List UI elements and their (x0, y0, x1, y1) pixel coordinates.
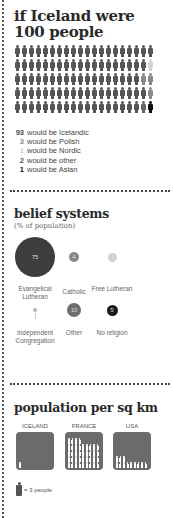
person-icon (21, 86, 28, 100)
person-icon (70, 86, 77, 100)
person-icon (84, 44, 91, 58)
person-icon (77, 44, 84, 58)
person-icon (49, 100, 56, 114)
legend-item: 93would be Icelandic (14, 128, 89, 137)
person-icon (77, 58, 84, 72)
country-label: FRANCE (64, 423, 104, 429)
person-icon (49, 44, 56, 58)
person-icon (21, 72, 28, 86)
person-icon (14, 44, 21, 58)
legend-text: would be Icelandic (27, 128, 89, 137)
person-icon (98, 72, 105, 86)
person-icon (70, 72, 77, 86)
person-icon (133, 44, 140, 58)
belief-bubble: 4 (69, 252, 79, 262)
person-icon (133, 58, 140, 72)
belief-label: Free Lutheran (84, 285, 140, 293)
person-icon (56, 58, 63, 72)
person-icon (112, 72, 119, 86)
person-icon (147, 100, 154, 114)
person-icon (96, 444, 100, 450)
person-icon (126, 72, 133, 86)
person-icon (21, 100, 28, 114)
legend-item: 1would be Nordic (14, 146, 89, 155)
person-icon (96, 456, 100, 462)
person-icon (133, 72, 140, 86)
person-icon (133, 100, 140, 114)
person-icon (126, 58, 133, 72)
person-icon (35, 44, 42, 58)
person-icon (147, 58, 154, 72)
person-icon (28, 58, 35, 72)
legend-item: 2would be other (14, 156, 89, 165)
person-icon (147, 44, 154, 58)
person-icon (126, 86, 133, 100)
person-icon (147, 72, 154, 86)
person-icon (35, 86, 42, 100)
person-icon (70, 100, 77, 114)
person-icon (91, 86, 98, 100)
person-icon (49, 72, 56, 86)
person-icon (133, 86, 140, 100)
person-icon (140, 58, 147, 72)
section-title-people: if Iceland were 100 people (14, 8, 164, 40)
legend-count: 1 (14, 146, 24, 155)
person-icon (105, 58, 112, 72)
person-icon (112, 86, 119, 100)
person-icon (35, 58, 42, 72)
person-icon (105, 44, 112, 58)
person-icon (56, 100, 63, 114)
belief-label: No religion (84, 329, 140, 337)
country-label: USA (112, 423, 152, 429)
legend-item: 1would be Asian (14, 165, 89, 174)
person-icon (42, 72, 49, 86)
person-icon (42, 86, 49, 100)
person-icon (21, 44, 28, 58)
country-label: ICELAND (15, 423, 55, 429)
person-icon (140, 72, 147, 86)
density-box-iceland (16, 432, 54, 470)
section-title-density: population per sq km (14, 400, 158, 415)
person-icon (96, 450, 100, 456)
person-icon (119, 100, 126, 114)
person-icon (98, 86, 105, 100)
person-icon (112, 44, 119, 58)
person-icon (91, 72, 98, 86)
legend-text: would be Nordic (27, 146, 81, 155)
person-icon (140, 44, 147, 58)
section-divider (10, 190, 170, 192)
person-key-label: = 3 people (24, 487, 52, 493)
person-icon (63, 72, 70, 86)
person-icon (91, 44, 98, 58)
person-icon (119, 44, 126, 58)
person-icon (144, 462, 148, 468)
person-icon (84, 58, 91, 72)
person-icon (35, 72, 42, 86)
belief-bubble: 5 (107, 305, 118, 316)
person-icon (119, 86, 126, 100)
left-dotted-border (2, 0, 4, 518)
belief-bubble (33, 308, 37, 312)
person-icon (28, 100, 35, 114)
person-icon (122, 456, 126, 462)
person-icon (119, 58, 126, 72)
person-icon (84, 100, 91, 114)
person-icon (84, 86, 91, 100)
person-icon (63, 58, 70, 72)
person-icon (105, 100, 112, 114)
person-icon (126, 100, 133, 114)
person-icon (105, 86, 112, 100)
belief-bubble: 75 (15, 237, 55, 277)
legend-count: 93 (14, 128, 24, 137)
person-icon (14, 58, 21, 72)
person-icon (18, 462, 22, 468)
density-box-usa (113, 432, 151, 470)
legend-text: would be other (27, 156, 76, 165)
person-icon (28, 44, 35, 58)
person-icon (98, 100, 105, 114)
person-icon (70, 44, 77, 58)
person-icon (56, 44, 63, 58)
person-icon (112, 100, 119, 114)
person-icon (63, 100, 70, 114)
person-icon (140, 100, 147, 114)
